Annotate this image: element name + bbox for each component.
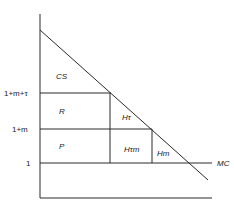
region-h-tau-m-label: Hτm <box>124 145 140 154</box>
region-p-label: P <box>59 142 65 151</box>
demand-line <box>40 30 208 180</box>
tick-label-1-m-tau: 1+m+τ <box>4 89 28 98</box>
region-r-label: R <box>59 107 65 116</box>
region-cs-label: CS <box>56 72 68 81</box>
welfare-diagram: 1+m+τ 1+m 1 CS R P Hτ Hτm Hm MC <box>0 0 234 200</box>
region-h-tau-label: Hτ <box>122 113 132 122</box>
tick-label-1: 1 <box>26 159 31 168</box>
mc-label: MC <box>217 159 230 168</box>
region-h-m-label: Hm <box>157 149 170 158</box>
tick-label-1-m: 1+m <box>12 125 28 134</box>
